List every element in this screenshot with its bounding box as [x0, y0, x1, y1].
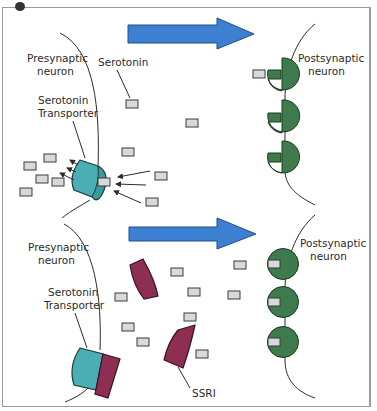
bottom-panel: Presynaptic neuron Serotonin Transporter… — [28, 215, 366, 402]
transporter-label: Serotonin — [38, 94, 88, 106]
presynaptic-label: Presynaptic — [28, 241, 89, 253]
serotonin-label: Serotonin — [98, 56, 148, 68]
serotonin-molecules — [20, 70, 265, 206]
ssri-icon — [164, 325, 195, 368]
postsynaptic-label-2: neuron — [310, 250, 347, 262]
transporter-label-2: Transporter — [43, 299, 105, 311]
serotonin-ssri-diagram: Presynaptic neuron Serotonin Serotonin T… — [0, 0, 377, 411]
transporter-label-2: Transporter — [37, 107, 99, 119]
postsynaptic-label-2: neuron — [308, 65, 345, 77]
receptor-icon — [268, 287, 299, 318]
transporter-label: Serotonin — [48, 286, 98, 298]
presynaptic-label-2: neuron — [37, 65, 74, 77]
receptor-icon — [268, 327, 299, 358]
receptor-icon — [268, 100, 300, 133]
direction-arrow-icon — [128, 18, 254, 49]
direction-arrow-icon — [129, 218, 256, 249]
ssri-label: SSRI — [192, 387, 216, 399]
receptor-icon — [268, 58, 300, 91]
presynaptic-label-2: neuron — [38, 254, 75, 266]
postsynaptic-label: Postsynaptic — [298, 52, 364, 64]
receptor-icon — [268, 249, 299, 280]
ssri-icon — [130, 259, 158, 299]
presynaptic-label: Presynaptic — [27, 52, 88, 64]
postsynaptic-label: Postsynaptic — [300, 237, 366, 249]
receptor-icon — [268, 141, 300, 173]
top-panel: Presynaptic neuron Serotonin Serotonin T… — [20, 18, 364, 218]
